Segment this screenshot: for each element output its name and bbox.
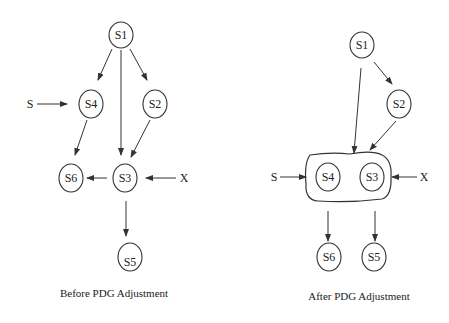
after-diagram: S X S1 S2 S4 S3 S6 S5 After PDG Adjustme…	[271, 32, 429, 302]
caption-after: After PDG Adjustment	[308, 290, 409, 302]
input-label-x: X	[420, 170, 429, 184]
node-s5: S5	[118, 243, 142, 271]
edge-s2-group	[370, 121, 396, 150]
caption-before: Before PDG Adjustment	[60, 287, 168, 299]
edge-s4-s6	[75, 120, 87, 155]
node-s6: S6	[59, 164, 83, 192]
svg-text:S2: S2	[393, 97, 406, 111]
edge-s1-s2	[130, 49, 147, 80]
svg-text:S4: S4	[322, 170, 335, 184]
svg-text:S3: S3	[366, 170, 379, 184]
svg-text:S4: S4	[85, 97, 98, 111]
node-s3: S3	[360, 163, 384, 191]
node-s3: S3	[113, 164, 137, 192]
node-s4: S4	[79, 90, 103, 118]
input-label-x: X	[180, 171, 189, 185]
node-s1: S1	[350, 32, 374, 58]
node-s1: S1	[109, 22, 133, 48]
edge-s1-s4	[98, 49, 112, 80]
node-s6: S6	[317, 243, 341, 271]
before-diagram: S X S1 S4 S2 S6 S3 S5 Before PDG Adjustm…	[27, 22, 189, 299]
svg-text:S2: S2	[149, 97, 162, 111]
edge-s1-s2	[374, 62, 392, 84]
pdg-diagram-canvas: S X S1 S4 S2 S6 S3 S5 Before PDG Adjustm…	[0, 0, 449, 323]
svg-text:S1: S1	[115, 28, 128, 42]
input-label-s: S	[271, 170, 278, 184]
node-s4: S4	[316, 163, 340, 191]
svg-text:S3: S3	[119, 171, 132, 185]
svg-text:S1: S1	[356, 38, 369, 52]
node-s5: S5	[362, 243, 386, 271]
svg-text:S6: S6	[65, 171, 78, 185]
svg-text:S6: S6	[323, 250, 336, 264]
node-s2: S2	[143, 90, 167, 118]
edge-s2-s3	[131, 120, 150, 157]
node-s2: S2	[387, 90, 411, 118]
svg-text:S5: S5	[368, 250, 381, 264]
input-label-s: S	[27, 97, 34, 111]
svg-text:S5: S5	[124, 255, 137, 269]
edge-s1-group	[354, 68, 361, 153]
